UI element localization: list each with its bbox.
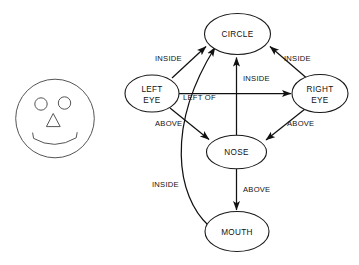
edge-label-above-right: ABOVE bbox=[287, 119, 314, 128]
node-mouth[interactable]: MOUTH bbox=[205, 212, 269, 252]
node-left-eye-label-line2: EYE bbox=[143, 96, 161, 105]
node-circle-label: CIRCLE bbox=[222, 30, 254, 39]
figure-container: CIRCLE LEFT EYE RIGHT EYE NOSE MOUTH bbox=[0, 0, 359, 265]
node-left-eye[interactable]: LEFT EYE bbox=[125, 75, 179, 112]
edge-label-inside-mouth: INSIDE bbox=[152, 180, 179, 189]
face-nose-triangle bbox=[46, 114, 60, 127]
node-right-eye-label-line2: EYE bbox=[311, 96, 329, 105]
node-right-eye-label-line1: RIGHT bbox=[307, 85, 334, 94]
smiley-face-drawing bbox=[16, 79, 95, 158]
face-outline-circle bbox=[16, 79, 95, 158]
face-left-eye-circle bbox=[35, 98, 47, 110]
node-right-eye[interactable]: RIGHT EYE bbox=[292, 75, 348, 113]
node-left-eye-label-line1: LEFT bbox=[141, 85, 162, 94]
face-mouth-arc bbox=[34, 138, 77, 145]
face-right-eye-circle bbox=[58, 97, 70, 109]
face-mouth-right-tick bbox=[76, 132, 77, 138]
node-mouth-label: MOUTH bbox=[221, 228, 253, 237]
node-nose[interactable]: NOSE bbox=[207, 135, 267, 169]
edge-label-above-nose-mouth: ABOVE bbox=[243, 185, 270, 194]
edge-label-left-of: LEFT OF bbox=[183, 93, 216, 102]
edge-mouth-to-circle bbox=[181, 48, 215, 227]
edge-label-inside-right: INSIDE bbox=[284, 54, 311, 63]
edge-label-inside-left: INSIDE bbox=[155, 54, 182, 63]
edge-label-above-left: ABOVE bbox=[155, 119, 182, 128]
semantic-network-graph: CIRCLE LEFT EYE RIGHT EYE NOSE MOUTH bbox=[125, 14, 348, 252]
diagram-canvas: CIRCLE LEFT EYE RIGHT EYE NOSE MOUTH bbox=[0, 0, 359, 265]
face-mouth-left-tick bbox=[33, 133, 34, 139]
edge-label-inside-center: INSIDE bbox=[243, 74, 270, 83]
node-circle[interactable]: CIRCLE bbox=[205, 14, 271, 55]
node-nose-label: NOSE bbox=[224, 148, 249, 157]
